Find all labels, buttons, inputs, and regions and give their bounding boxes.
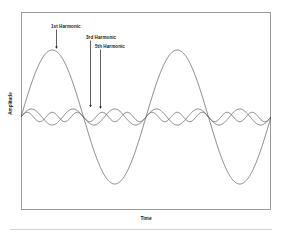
y-axis-label: Amplitude [8, 84, 13, 124]
harmonics-figure: 1st Harmonic 3rd Harmonic 5th Harmonic A… [0, 0, 282, 237]
annotation-label-1st-harmonic: 1st Harmonic [51, 24, 81, 29]
annotation-arrows [0, 0, 282, 237]
annotation-label-3rd-harmonic: 3rd Harmonic [86, 35, 116, 40]
annotation-label-5th-harmonic: 5th Harmonic [95, 44, 125, 49]
x-axis-label: Time [21, 216, 271, 221]
footer-divider [10, 229, 272, 230]
